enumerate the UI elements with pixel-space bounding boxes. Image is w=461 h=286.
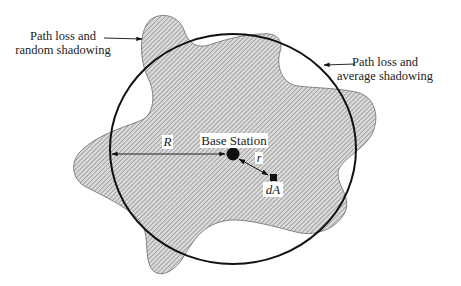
random-shadowing-pointer	[104, 38, 142, 39]
radius-label: R	[163, 134, 172, 149]
random-shadowing-label-line2: random shadowing	[15, 43, 111, 57]
distance-label: r	[257, 151, 262, 165]
area-element-icon	[270, 174, 277, 181]
random-shadowing-label-line1: Path loss and	[30, 29, 97, 43]
coverage-diagram: Base Station R r dA Path loss and random…	[0, 0, 461, 286]
base-station-icon	[227, 148, 240, 161]
average-shadowing-label-line2: average shadowing	[337, 69, 434, 83]
average-shadowing-pointer	[324, 64, 355, 65]
average-shadowing-label-line1: Path loss and	[352, 55, 419, 69]
base-station-label: Base Station	[201, 133, 267, 148]
area-element-label: dA	[266, 182, 281, 197]
